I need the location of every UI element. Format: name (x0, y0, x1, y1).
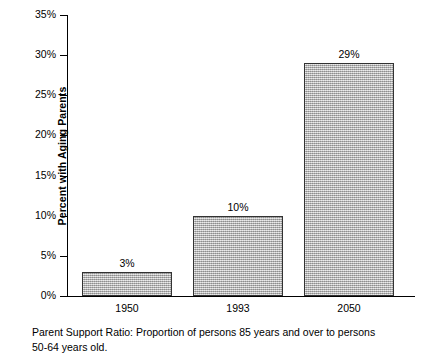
caption-line-1: Parent Support Ratio: Proportion of pers… (32, 325, 417, 340)
x-axis-label-1993: 1993 (193, 301, 283, 315)
bar-chart: Percent with Aging Parents 35% 30% 25% 2… (0, 0, 425, 360)
caption-line-2: 50-64 years old. (32, 340, 417, 355)
chart-caption: Parent Support Ratio: Proportion of pers… (32, 325, 417, 354)
bar-2050 (304, 63, 394, 296)
bar-value-label-1950: 3% (82, 257, 172, 270)
bar-1993 (193, 216, 283, 296)
bar-value-label-1993: 10% (193, 201, 283, 214)
x-axis-label-2050: 2050 (304, 301, 394, 315)
bar-1950 (82, 272, 172, 296)
bar-value-label-2050: 29% (304, 48, 394, 61)
x-axis-label-1950: 1950 (82, 301, 172, 315)
